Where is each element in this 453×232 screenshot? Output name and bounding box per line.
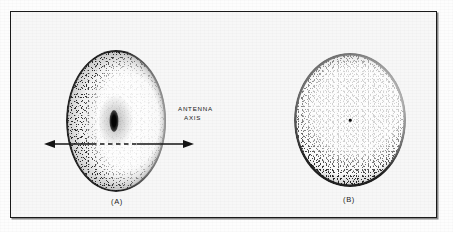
panel-b: (B) [284, 43, 414, 213]
antenna-axis-svg [44, 136, 214, 152]
arrow-left-icon [44, 140, 55, 148]
antenna-dish-face-on [294, 53, 406, 187]
antenna-axis-label-line-2: AXIS [178, 114, 238, 123]
antenna-dish-oblique [66, 50, 166, 192]
arrow-right-icon [183, 140, 194, 148]
antenna-feed-point [110, 110, 119, 132]
figure-root: (A) ANTENNA AXIS (B) [0, 0, 453, 232]
dish-face-center-point [349, 119, 352, 122]
antenna-axis-arrow [44, 136, 214, 152]
panel-a: (A) [57, 39, 177, 214]
figure-frame: (A) ANTENNA AXIS (B) [10, 11, 437, 218]
antenna-axis-label: ANTENNA AXIS [178, 105, 238, 122]
antenna-axis-label-line-1: ANTENNA [178, 105, 213, 112]
panel-a-caption: (A) [57, 197, 177, 206]
panel-b-caption: (B) [284, 195, 414, 204]
